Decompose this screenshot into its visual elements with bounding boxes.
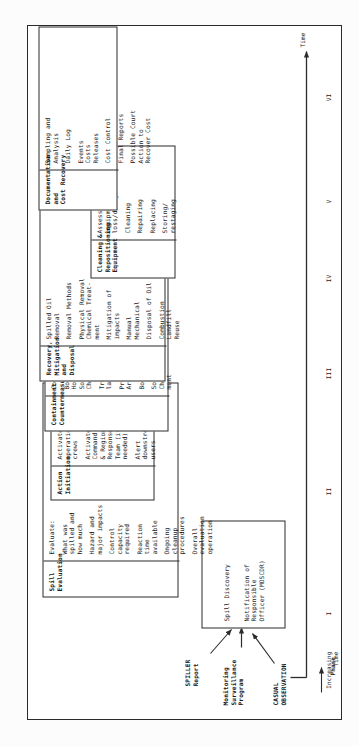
phase-label-vi: VI Documentation and Cost Recovery — [316, 41, 342, 153]
box-cleaning-header: Cleaning & Repositioning Equipment — [91, 239, 176, 277]
phase-roman-ii: II — [324, 439, 332, 543]
axis-label-phase: Phase — [328, 656, 335, 675]
doc-item-4: Final Reports — [116, 29, 124, 163]
phase-label-ii: II Evaluation and Action Initiation — [316, 439, 342, 543]
phase-title-v: Cleaning & Repositioning Equipment — [339, 149, 342, 253]
phase-title-vi: Documentation and Cost Recovery — [339, 41, 342, 153]
label-spiller-report: SPILLER Report — [183, 659, 198, 686]
box-spill-evaluation-header: Spill Evaluation — [43, 560, 179, 596]
doc-item-3: Cost Control — [103, 29, 111, 163]
phase-roman-i: I — [324, 567, 332, 659]
figure-page: CASUAL OBSERVATION Monitoring Surveillan… — [0, 0, 359, 746]
box-documentation-body: Sampling and Analysis Daily Log Events C… — [39, 25, 118, 169]
cleaning-item-4: Storing/ restaging — [160, 148, 175, 233]
phase-label-v: V Cleaning & Repositioning Equipment — [316, 149, 342, 253]
box-documentation-header: Documentation and Cost Recovery — [39, 169, 118, 209]
box-action-initiation-header: Action Initiation — [51, 465, 155, 499]
phase-roman-v: V — [324, 149, 332, 253]
box-discovery: Spill Discovery Notification of Responsi… — [201, 520, 285, 628]
label-casual-observation: CASUAL OBSERVATION — [271, 663, 286, 705]
label-monitoring-surveillance-program: Monitoring Surveillance Program — [221, 659, 244, 705]
phase-label-iii: III Containment and Countermeasures — [316, 323, 342, 423]
phase-roman-vi: VI — [324, 41, 332, 153]
phase-roman-iii: III — [324, 323, 332, 423]
doc-item-5: Possible Court Action to Recover Cost — [128, 29, 151, 163]
eval-item-6: Overall evaluation operation — [190, 385, 213, 554]
doc-item-1: Daily Log — [63, 29, 71, 163]
box-recovery-header: Recovery, Mitigation and Disposal — [40, 345, 166, 380]
discovery-item-1: Notification of Responsible Officer (MOS… — [242, 523, 265, 621]
box-containment-header: Containment and Countermeasures — [45, 395, 169, 430]
figure-sheet-border: CASUAL OBSERVATION Monitoring Surveillan… — [27, 25, 342, 720]
box-discovery-body: Spill Discovery Notification of Responsi… — [202, 519, 286, 627]
axis-label-time: Time — [298, 32, 305, 47]
phase-title-i: Discovery and Notification — [339, 567, 342, 659]
doc-item-2: Events Costs Releases — [76, 29, 99, 163]
phase-label-i: I Discovery and Notification — [316, 567, 342, 659]
discovery-item-0: Spill Discovery — [222, 523, 230, 621]
phase-title-iii: Containment and Countermeasures — [339, 323, 342, 423]
box-documentation-cost-recovery: Documentation and Cost Recovery Sampling… — [38, 26, 117, 210]
doc-item-0: Sampling and Analysis — [43, 29, 58, 163]
phase-title-ii: Evaluation and Action Initiation — [339, 439, 342, 543]
flowchart-canvas: CASUAL OBSERVATION Monitoring Surveillan… — [28, 26, 341, 719]
